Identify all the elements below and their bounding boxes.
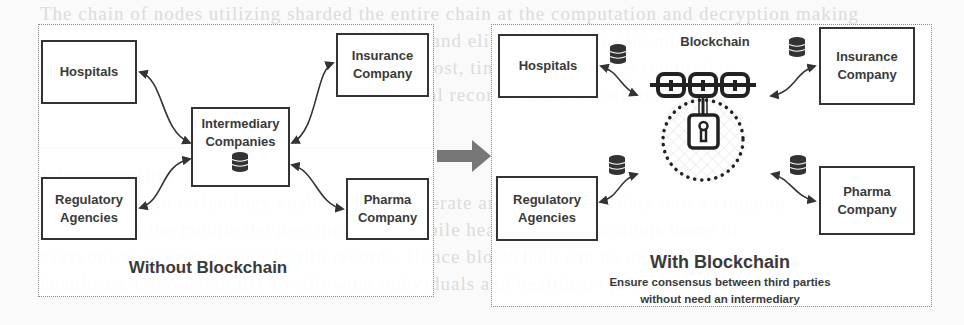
- database-icon: [610, 44, 626, 64]
- lock-icon: [689, 115, 718, 148]
- database-icon: [609, 155, 625, 175]
- left-arrows: [140, 63, 343, 209]
- chain-icon: [650, 74, 756, 115]
- database-icon: [232, 152, 248, 172]
- database-icon: [790, 155, 806, 175]
- diagram-graphics: [0, 0, 964, 325]
- database-icon: [789, 37, 805, 57]
- transition-arrow-icon: [437, 140, 491, 172]
